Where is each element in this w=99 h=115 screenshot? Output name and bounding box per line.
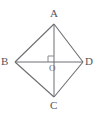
side-cd — [54, 62, 83, 97]
geometry-diagram: A B C D O — [0, 0, 99, 115]
vertex-label-c: C — [50, 100, 57, 111]
vertex-label-b: B — [1, 56, 8, 67]
center-point-label-o: O — [49, 64, 56, 73]
vertex-label-a: A — [50, 8, 58, 19]
vertex-label-d: D — [85, 56, 93, 67]
side-da — [54, 24, 83, 62]
right-angle-marker-icon — [48, 56, 54, 62]
